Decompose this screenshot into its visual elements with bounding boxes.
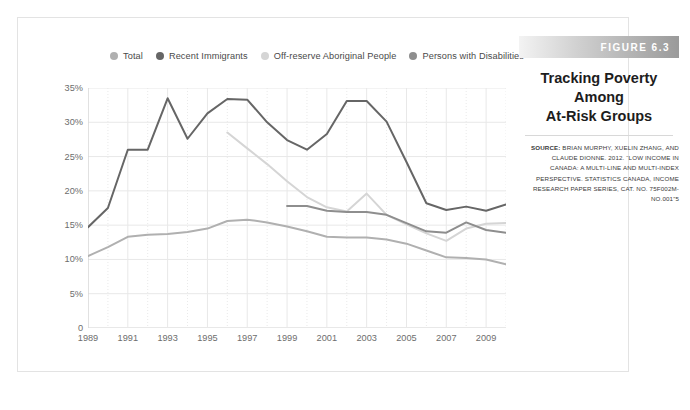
x-axis-tick-4: 1997 [237,333,257,343]
legend-label-total: Total [123,51,143,61]
legend-label-off-reserve-aboriginal-people: Off-reserve Aboriginal People [274,51,397,61]
y-axis-tick-7: 35% [65,83,83,93]
x-axis-tick-9: 2007 [436,333,456,343]
x-axis-tick-0: 1989 [78,333,98,343]
legend-item-persons-with-disabilities: Persons with Disabilities [409,51,524,61]
y-axis-tick-6: 30% [65,117,83,127]
legend-item-total: Total [110,51,143,61]
x-axis-tick-5: 1999 [277,333,297,343]
legend-label-persons-with-disabilities: Persons with Disabilities [422,51,524,61]
legend-swatch-total [110,52,118,60]
legend-item-off-reserve-aboriginal-people: Off-reserve Aboriginal People [261,51,397,61]
y-axis-tick-0: 0 [78,323,83,333]
figure-divider [525,135,673,136]
legend-swatch-persons-with-disabilities [409,52,417,60]
figure-title-line2: At-Risk Groups [521,107,677,126]
y-axis-tick-5: 25% [65,152,83,162]
legend-label-recent-immigrants: Recent Immigrants [169,51,248,61]
y-axis-tick-4: 20% [65,186,83,196]
figure-title-line1: Tracking Poverty Among [521,69,677,107]
x-axis-tick-1: 1991 [118,333,138,343]
x-axis-tick-10: 2009 [476,333,496,343]
figure-side-panel: FIGURE 6.3 Tracking Poverty Among At-Ris… [519,36,679,204]
legend-item-recent-immigrants: Recent Immigrants [156,51,248,61]
x-axis-tick-7: 2003 [356,333,376,343]
figure-number-label: FIGURE 6.3 [601,42,670,53]
chart-plot-area [88,88,506,328]
x-axis-tick-2: 1993 [157,333,177,343]
figure-page: Total Recent Immigrants Off-reserve Abor… [0,0,690,410]
y-axis-tick-1: 5% [70,289,83,299]
chart-legend: Total Recent Immigrants Off-reserve Abor… [110,51,524,61]
figure-source-prefix: SOURCE: [531,144,561,151]
figure-title: Tracking Poverty Among At-Risk Groups [519,69,679,126]
y-axis-tick-2: 10% [65,254,83,264]
figure-source-text: BRIAN MURPHY, XUELIN ZHANG, AND CLAUDE D… [533,144,679,201]
legend-swatch-recent-immigrants [156,52,164,60]
y-axis-labels: 05%10%15%20%25%30%35% [52,88,83,328]
x-axis-tick-6: 2001 [317,333,337,343]
figure-source: SOURCE: BRIAN MURPHY, XUELIN ZHANG, AND … [519,143,679,203]
x-axis-tick-8: 2005 [396,333,416,343]
x-axis-tick-3: 1995 [197,333,217,343]
chart-svg [88,88,506,328]
x-axis-labels: 1989199119931995199719992001200320052007… [88,333,506,349]
figure-number-band: FIGURE 6.3 [519,36,679,58]
y-axis-tick-3: 15% [65,220,83,230]
legend-swatch-off-reserve-aboriginal-people [261,52,269,60]
